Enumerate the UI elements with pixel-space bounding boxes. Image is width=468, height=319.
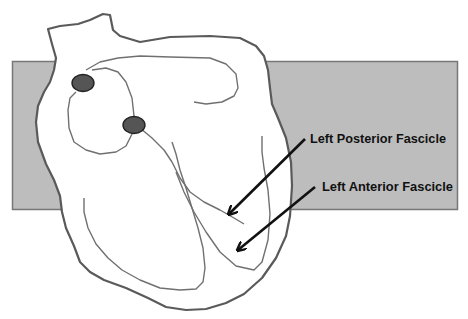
label-left-anterior-fascicle: Left Anterior Fascicle [322,179,453,194]
heart-outer-outline [36,14,292,310]
heart-diagram: Left Posterior Fascicle Left Anterior Fa… [0,0,468,319]
label-left-posterior-fascicle: Left Posterior Fascicle [310,131,446,146]
atrioventricular-node [123,117,145,134]
sinoatrial-node [72,75,94,92]
